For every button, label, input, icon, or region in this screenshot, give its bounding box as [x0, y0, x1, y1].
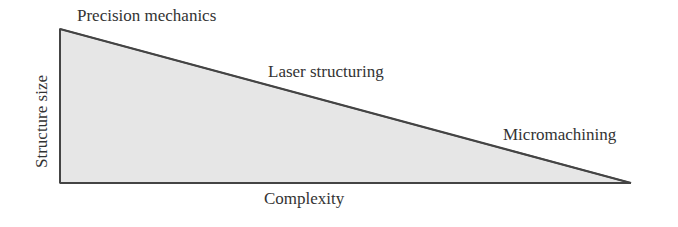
x-axis-label: Complexity — [264, 189, 344, 209]
y-axis-label: Structure size — [32, 75, 52, 168]
label-laser-structuring: Laser structuring — [268, 62, 384, 82]
label-precision-mechanics: Precision mechanics — [77, 6, 216, 26]
label-micromachining: Micromachining — [503, 125, 616, 145]
